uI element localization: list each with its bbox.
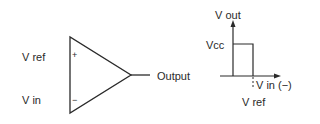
- y-axis-label: V out: [215, 9, 241, 21]
- output-transfer-curve: [233, 44, 253, 76]
- minus-sign: −: [72, 96, 77, 105]
- x-axis-label: V in (−): [256, 79, 292, 91]
- output-label: Output: [157, 70, 190, 82]
- vcc-level-label: Vcc: [206, 39, 224, 51]
- plus-sign: +: [72, 51, 77, 60]
- input-plus-label: V ref: [22, 51, 45, 63]
- x-axis-arrow-icon: [274, 74, 281, 79]
- threshold-label: V ref: [242, 96, 265, 108]
- input-minus-label: V in: [22, 94, 41, 106]
- y-axis-arrow-icon: [231, 20, 236, 27]
- op-amp-symbol: [70, 37, 131, 113]
